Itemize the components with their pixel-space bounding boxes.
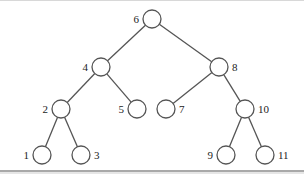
tree-node-8: 8 [210, 58, 238, 76]
edge-4-5 [107, 74, 131, 102]
tree-nodes: 6482571013911 [24, 10, 289, 164]
node-circle [217, 146, 235, 164]
tree-edges [45, 24, 261, 147]
tree-node-1: 1 [24, 146, 52, 164]
node-label: 5 [119, 103, 125, 115]
bottom-strip [0, 172, 304, 174]
node-label: 11 [278, 149, 289, 161]
node-label: 8 [232, 61, 238, 73]
edge-10-11 [249, 117, 262, 146]
tree-node-10: 10 [236, 100, 270, 118]
tree-node-3: 3 [72, 146, 100, 164]
edge-10-9 [229, 117, 241, 146]
node-label: 7 [179, 103, 185, 115]
node-circle [33, 146, 51, 164]
edge-6-4 [108, 25, 146, 61]
node-circle [143, 10, 161, 28]
tree-node-5: 5 [119, 100, 147, 118]
binary-tree-graphic: 6482571013911 [0, 0, 304, 174]
node-circle [157, 100, 175, 118]
tree-node-4: 4 [83, 58, 111, 76]
tree-diagram: 6482571013911 [0, 0, 304, 174]
node-circle [210, 58, 228, 76]
node-label: 3 [94, 149, 100, 161]
edge-4-2 [67, 74, 95, 103]
node-circle [72, 146, 90, 164]
node-label: 2 [43, 103, 49, 115]
tree-node-2: 2 [43, 100, 71, 118]
tree-node-7: 7 [157, 100, 185, 118]
node-circle [128, 100, 146, 118]
node-label: 6 [134, 13, 140, 25]
edge-8-7 [173, 73, 212, 104]
node-label: 9 [208, 149, 214, 161]
node-label: 10 [258, 103, 270, 115]
node-circle [52, 100, 70, 118]
node-label: 1 [24, 149, 30, 161]
tree-node-9: 9 [208, 146, 236, 164]
node-circle [92, 58, 110, 76]
edge-2-1 [45, 117, 57, 146]
edge-8-10 [224, 75, 241, 102]
tree-node-11: 11 [256, 146, 289, 164]
edge-6-8 [159, 24, 211, 62]
node-circle [256, 146, 274, 164]
node-circle [236, 100, 254, 118]
tree-node-6: 6 [134, 10, 162, 28]
edge-2-3 [65, 117, 78, 146]
node-label: 4 [83, 61, 89, 73]
